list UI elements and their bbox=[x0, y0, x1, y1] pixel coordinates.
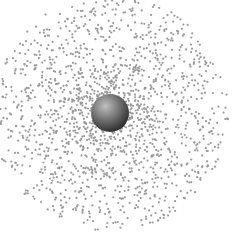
electron-dot bbox=[111, 0, 113, 2]
electron-dot bbox=[217, 147, 219, 149]
electron-dot bbox=[167, 159, 169, 161]
electron-dot bbox=[133, 71, 135, 73]
electron-dot bbox=[81, 102, 83, 104]
electron-dot bbox=[135, 204, 137, 206]
electron-dot bbox=[65, 66, 67, 68]
electron-dot bbox=[138, 200, 140, 202]
electron-dot bbox=[166, 96, 168, 98]
electron-dot bbox=[119, 209, 121, 211]
electron-dot bbox=[100, 144, 102, 146]
electron-dot bbox=[51, 142, 53, 144]
electron-dot bbox=[94, 38, 96, 40]
electron-dot bbox=[131, 167, 133, 169]
electron-dot bbox=[149, 222, 151, 224]
electron-dot bbox=[30, 43, 32, 45]
electron-dot bbox=[206, 160, 208, 162]
electron-dot bbox=[81, 96, 83, 98]
electron-dot bbox=[55, 91, 57, 93]
electron-dot bbox=[99, 200, 101, 202]
electron-dot bbox=[61, 44, 63, 46]
electron-dot bbox=[84, 198, 86, 200]
electron-dot bbox=[136, 186, 138, 188]
electron-dot bbox=[135, 188, 137, 190]
electron-dot bbox=[21, 90, 23, 92]
electron-dot bbox=[94, 139, 96, 141]
electron-dot bbox=[104, 76, 106, 78]
electron-dot bbox=[16, 164, 18, 166]
electron-dot bbox=[117, 185, 119, 187]
electron-dot bbox=[76, 126, 78, 128]
electron-dot bbox=[135, 150, 137, 152]
electron-dot bbox=[52, 120, 54, 122]
electron-dot bbox=[48, 29, 50, 31]
electron-dot bbox=[74, 118, 76, 120]
electron-dot bbox=[87, 179, 89, 181]
electron-dot bbox=[69, 130, 71, 132]
electron-dot bbox=[214, 166, 216, 168]
electron-dot bbox=[59, 47, 61, 49]
electron-dot bbox=[34, 64, 36, 66]
electron-dot bbox=[46, 48, 48, 50]
electron-dot bbox=[137, 90, 139, 92]
electron-dot bbox=[172, 119, 174, 121]
electron-dot bbox=[156, 54, 158, 56]
electron-dot bbox=[44, 114, 46, 116]
electron-dot bbox=[53, 177, 55, 179]
electron-dot bbox=[34, 129, 36, 131]
electron-dot bbox=[180, 115, 182, 117]
electron-dot bbox=[15, 60, 17, 62]
electron-dot bbox=[65, 202, 67, 204]
electron-dot bbox=[65, 84, 67, 86]
electron-dot bbox=[164, 183, 166, 185]
electron-dot bbox=[173, 15, 175, 17]
electron-dot bbox=[124, 190, 126, 192]
electron-dot bbox=[84, 23, 86, 25]
electron-dot bbox=[60, 73, 62, 75]
electron-dot bbox=[101, 86, 103, 88]
electron-dot bbox=[75, 207, 77, 209]
electron-dot bbox=[65, 189, 67, 191]
electron-dot bbox=[14, 70, 16, 72]
electron-dot bbox=[130, 112, 132, 114]
electron-dot bbox=[60, 100, 62, 102]
electron-dot bbox=[93, 153, 95, 155]
electron-dot bbox=[189, 64, 191, 66]
electron-dot bbox=[71, 99, 73, 101]
electron-dot bbox=[148, 43, 150, 45]
electron-dot bbox=[94, 161, 96, 163]
electron-dot bbox=[150, 166, 152, 168]
electron-dot bbox=[187, 100, 189, 102]
electron-dot bbox=[143, 95, 145, 97]
electron-dot bbox=[107, 4, 109, 6]
electron-dot bbox=[85, 123, 87, 125]
electron-dot bbox=[28, 129, 30, 131]
electron-dot bbox=[108, 20, 110, 22]
electron-dot bbox=[78, 191, 80, 193]
electron-dot bbox=[69, 30, 71, 32]
electron-dot bbox=[16, 105, 18, 107]
electron-dot bbox=[109, 81, 111, 83]
electron-dot bbox=[143, 111, 145, 113]
electron-dot bbox=[74, 136, 76, 138]
electron-dot bbox=[188, 175, 190, 177]
electron-dot bbox=[99, 211, 101, 213]
electron-dot bbox=[29, 134, 31, 136]
electron-dot bbox=[22, 135, 24, 137]
electron-dot bbox=[93, 76, 95, 78]
electron-dot bbox=[107, 208, 109, 210]
electron-dot bbox=[150, 110, 152, 112]
electron-dot bbox=[191, 79, 193, 81]
electron-dot bbox=[80, 10, 82, 12]
electron-dot bbox=[41, 71, 43, 73]
electron-dot bbox=[95, 130, 97, 132]
electron-dot bbox=[141, 187, 143, 189]
electron-dot bbox=[153, 81, 155, 83]
electron-dot bbox=[80, 187, 82, 189]
electron-dot bbox=[166, 183, 168, 185]
electron-dot bbox=[77, 132, 79, 134]
electron-dot bbox=[102, 61, 104, 63]
electron-dot bbox=[134, 94, 136, 96]
electron-dot bbox=[15, 125, 17, 127]
electron-dot bbox=[78, 89, 80, 91]
electron-dot bbox=[144, 88, 146, 90]
